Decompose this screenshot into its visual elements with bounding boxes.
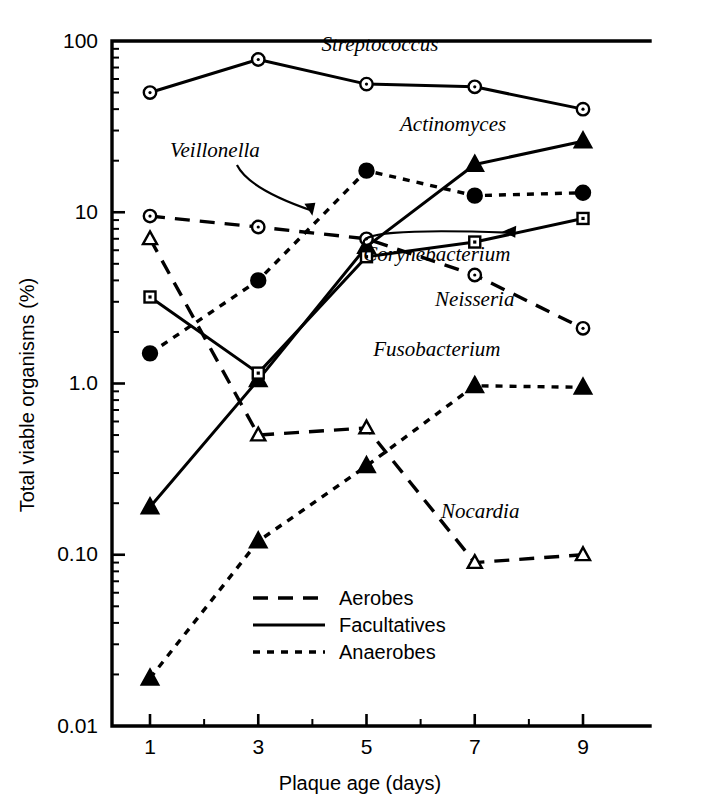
series-label-nocardia: Nocardia xyxy=(440,499,520,523)
data-point xyxy=(143,231,157,244)
x-tick-label: 3 xyxy=(252,735,264,758)
data-point-center xyxy=(148,214,151,217)
x-tick-label: 5 xyxy=(361,735,373,758)
series-neisseria xyxy=(144,210,589,335)
legend-label-anaerobes: Anaerobes xyxy=(339,641,436,663)
data-point xyxy=(250,533,266,548)
y-tick-label: 0.10 xyxy=(57,542,98,565)
x-axis-ticks: 13579 xyxy=(144,714,589,758)
data-point xyxy=(467,377,483,392)
data-point-center xyxy=(148,91,151,94)
data-point xyxy=(576,186,590,200)
data-point-center xyxy=(581,217,584,220)
series-labels: StreptococcusActinomycesVeillonellaCoryn… xyxy=(170,32,519,523)
legend-label-aerobes: Aerobes xyxy=(339,587,414,609)
plaque-age-log-chart: 100101.00.100.01 13579 Total viable orga… xyxy=(0,0,703,812)
data-point xyxy=(468,189,482,203)
data-point xyxy=(360,164,374,178)
chart-legend: AerobesFacultativesAnaerobes xyxy=(253,587,446,663)
data-point-center xyxy=(473,85,476,88)
series-label-corynebacterium: Corynebacterium xyxy=(363,242,510,266)
data-point-center xyxy=(473,273,476,276)
data-point xyxy=(575,379,591,394)
series-streptococcus xyxy=(144,53,589,115)
x-tick-label: 7 xyxy=(469,735,481,758)
series-label-fusobacterium: Fusobacterium xyxy=(372,337,500,361)
y-tick-label: 10 xyxy=(75,200,98,223)
data-point xyxy=(142,670,158,685)
data-point-center xyxy=(148,295,151,298)
data-point xyxy=(575,133,591,148)
data-point-center xyxy=(257,58,260,61)
chart-figure: 100101.00.100.01 13579 Total viable orga… xyxy=(0,0,703,812)
series-label-neisseria: Neisseria xyxy=(434,287,514,311)
y-axis-title: Total viable organisms (%) xyxy=(16,278,38,513)
data-point xyxy=(251,273,265,287)
y-axis-ticks: 100101.00.100.01 xyxy=(57,29,125,737)
leader-line-veillonella xyxy=(237,165,312,211)
data-point-center xyxy=(365,83,368,86)
x-tick-label: 9 xyxy=(577,735,589,758)
data-point xyxy=(358,457,374,472)
x-axis-title: Plaque age (days) xyxy=(279,772,441,794)
legend-label-facultatives: Facultatives xyxy=(339,614,446,636)
y-tick-label: 1.0 xyxy=(69,371,98,394)
series-nocardia xyxy=(143,231,590,568)
series-label-actinomyces: Actinomyces xyxy=(398,112,506,136)
data-point-center xyxy=(581,108,584,111)
series-label-streptococcus: Streptococcus xyxy=(322,32,439,56)
y-tick-label: 0.01 xyxy=(57,714,98,737)
data-point-center xyxy=(257,372,260,375)
data-point-center xyxy=(581,327,584,330)
y-tick-label: 100 xyxy=(63,29,98,52)
series-label-veillonella: Veillonella xyxy=(170,138,260,162)
data-point-center xyxy=(257,225,260,228)
x-tick-label: 1 xyxy=(144,735,156,758)
data-point xyxy=(143,346,157,360)
